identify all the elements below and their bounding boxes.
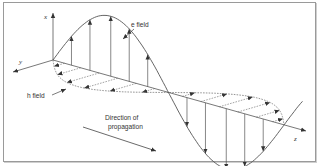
h-field-vector [219,97,252,107]
em-wave-diagram: x y z e field h field Direction of propa… [0,0,319,166]
e-field-label: e field [131,21,149,28]
direction-label-line2: propagation [108,123,143,131]
z-axis-label: z [293,135,297,143]
h-field-vector [57,68,80,75]
z-axis [53,60,306,131]
h-field-vector [182,93,195,97]
h-field-vector [256,110,279,117]
direction-label-line1: Direction of [105,114,139,121]
h-field-pointer [52,89,66,95]
x-axis-label: x [43,13,48,21]
h-field-vector [272,119,283,122]
h-field-label: h field [27,92,45,99]
h-field-vector [238,102,270,112]
e-field-pointer [123,29,134,39]
h-field-vector [142,89,155,93]
e-field-curve [53,15,303,166]
h-field-vector [67,73,99,83]
h-field-vector [84,78,117,88]
propagation-arrow [83,127,156,151]
h-field-vector [54,63,65,66]
h-field-vector [110,83,136,91]
h-field-vector [201,94,227,102]
y-axis-label: y [18,58,23,66]
